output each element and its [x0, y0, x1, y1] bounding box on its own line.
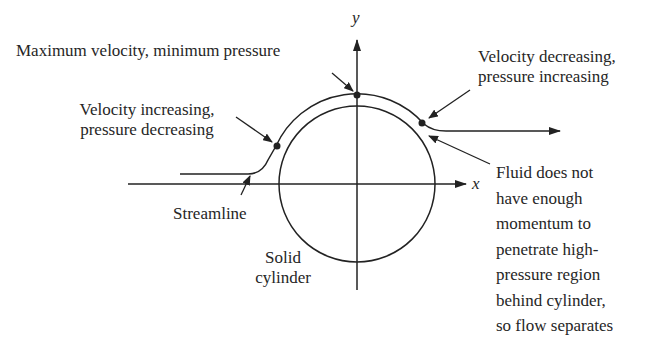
label-velocity-increasing: Velocity increasing, pressure decreasing [62, 100, 232, 140]
dot-left [274, 143, 281, 150]
pointer-top [332, 73, 353, 91]
label-fluid-separation: Fluid does not have enough momentum to p… [496, 160, 613, 339]
label-streamline: Streamline [173, 204, 247, 224]
dot-top [354, 92, 361, 99]
pointer-right [429, 90, 470, 118]
x-axis-label: x [472, 174, 480, 194]
dot-right [419, 120, 426, 127]
label-velocity-decreasing: Velocity decreasing, pressure increasing [478, 47, 616, 87]
label-max-velocity: Maximum velocity, minimum pressure [16, 41, 280, 61]
pointer-left [236, 117, 272, 142]
pointer-streamline [241, 176, 250, 195]
y-axis-label: y [352, 8, 360, 28]
pointer-fluid [429, 136, 490, 164]
label-solid-cylinder: Solid cylinder [248, 248, 318, 288]
